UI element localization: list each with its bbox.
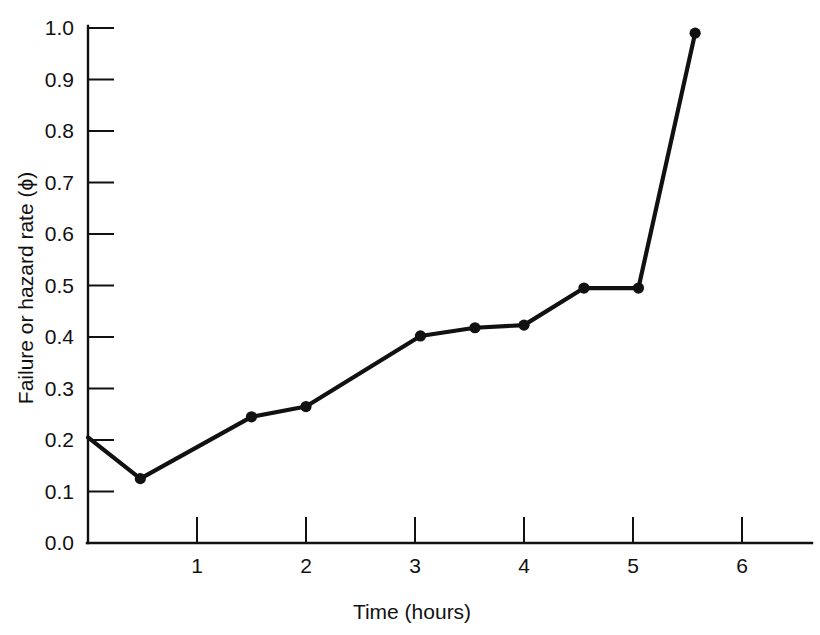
- y-tick-label: 0.1: [45, 480, 74, 503]
- y-tick-label: 0.0: [45, 531, 74, 554]
- y-tick-label: 0.6: [45, 222, 74, 245]
- x-tick-label: 1: [191, 554, 203, 577]
- x-axis-tick-marks: [197, 517, 742, 543]
- data-point: [246, 411, 257, 422]
- hazard-rate-data-points: [135, 28, 701, 485]
- data-point: [469, 322, 480, 333]
- x-axis-title: Time (hours): [353, 600, 471, 623]
- x-tick-label: 3: [409, 554, 421, 577]
- data-point: [633, 282, 644, 293]
- data-point: [300, 401, 311, 412]
- y-axis-tick-marks: [88, 28, 114, 492]
- y-tick-label: 0.3: [45, 377, 74, 400]
- hazard-rate-line: [88, 33, 695, 478]
- y-tick-label: 0.7: [45, 171, 74, 194]
- x-axis-tick-labels: 123456: [191, 554, 748, 577]
- y-tick-label: 0.9: [45, 68, 74, 91]
- x-tick-label: 4: [518, 554, 530, 577]
- hazard-rate-chart-figure: 0.00.10.20.30.40.50.60.70.80.91.0 123456…: [0, 0, 820, 635]
- data-point: [518, 320, 529, 331]
- y-axis-tick-labels: 0.00.10.20.30.40.50.60.70.80.91.0: [45, 16, 75, 554]
- y-axis-title: Failure or hazard rate (ϕ): [14, 172, 37, 404]
- chart-plot-area: 0.00.10.20.30.40.50.60.70.80.91.0 123456…: [0, 0, 820, 635]
- data-point: [135, 473, 146, 484]
- y-tick-label: 0.8: [45, 119, 74, 142]
- y-tick-label: 0.4: [45, 325, 75, 348]
- data-point: [578, 282, 589, 293]
- y-tick-label: 1.0: [45, 16, 74, 39]
- data-point: [690, 28, 701, 39]
- y-tick-label: 0.5: [45, 274, 74, 297]
- x-tick-label: 5: [627, 554, 639, 577]
- y-tick-label: 0.2: [45, 428, 74, 451]
- data-point: [415, 330, 426, 341]
- x-tick-label: 6: [736, 554, 748, 577]
- x-tick-label: 2: [300, 554, 312, 577]
